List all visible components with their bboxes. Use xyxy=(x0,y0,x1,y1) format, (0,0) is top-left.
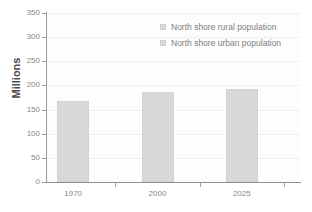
y-axis-tick-label: 100 xyxy=(10,130,40,138)
y-axis-tick xyxy=(42,110,46,111)
y-axis-tick xyxy=(42,85,46,86)
x-axis-tick-label: 2025 xyxy=(217,190,267,198)
y-axis-tick xyxy=(42,37,46,38)
y-axis-tick xyxy=(42,134,46,135)
y-axis-tick-label: 0 xyxy=(10,178,40,186)
bar-chart: Millions 050100150200250300350 197020002… xyxy=(0,0,312,212)
legend-label: North shore urban population xyxy=(171,39,281,48)
x-axis-line xyxy=(46,182,301,183)
chart-legend: North shore rural populationNorth shore … xyxy=(160,22,305,54)
y-axis-tick xyxy=(42,182,46,183)
y-axis-title: Millions xyxy=(10,43,22,113)
y-axis-tick-label: 200 xyxy=(10,81,40,89)
bar xyxy=(226,89,258,182)
legend-swatch-icon xyxy=(160,40,166,46)
legend-item[interactable]: North shore rural population xyxy=(160,22,305,32)
bar xyxy=(142,92,174,182)
y-axis-tick xyxy=(42,13,46,14)
x-axis-tick xyxy=(115,183,116,187)
legend-swatch-icon xyxy=(160,24,166,30)
y-axis-tick xyxy=(42,158,46,159)
y-axis-tick-label: 150 xyxy=(10,106,40,114)
x-axis-tick xyxy=(284,183,285,187)
bar xyxy=(57,101,89,182)
y-axis-tick-label: 250 xyxy=(10,57,40,65)
x-axis-tick-label: 1970 xyxy=(48,190,98,198)
legend-label: North shore rural population xyxy=(171,23,276,32)
x-axis-tick-label: 2000 xyxy=(133,190,183,198)
y-axis-tick-label: 300 xyxy=(10,33,40,41)
x-axis-tick xyxy=(200,183,201,187)
y-axis-tick-label: 350 xyxy=(10,9,40,17)
legend-item[interactable]: North shore urban population xyxy=(160,38,305,48)
y-axis-tick xyxy=(42,61,46,62)
y-axis-tick-label: 50 xyxy=(10,154,40,162)
